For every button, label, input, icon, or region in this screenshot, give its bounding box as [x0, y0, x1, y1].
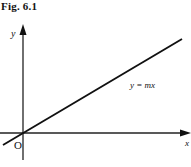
y-axis-arrow-icon — [20, 24, 27, 35]
y-axis-label: y — [10, 28, 16, 39]
origin-label: O — [14, 139, 22, 151]
x-axis-arrow-icon — [180, 130, 191, 137]
line-graph: y x O y = mx — [0, 0, 191, 167]
x-axis-label: x — [184, 138, 189, 148]
line-equation-label: y = mx — [129, 80, 155, 90]
line-y-equals-mx — [3, 39, 182, 145]
